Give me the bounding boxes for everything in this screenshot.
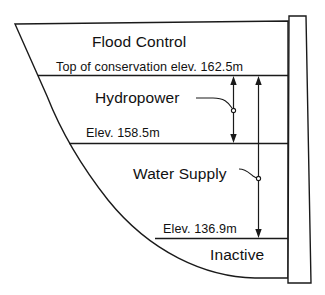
elevation-label-158-5: Elev. 158.5m — [86, 126, 160, 140]
zone-label-water-supply: Water Supply — [133, 165, 227, 183]
dam-wall — [288, 16, 311, 283]
zone-label-flood-control: Flood Control — [92, 33, 186, 51]
elevation-label-top-of-conservation: Top of conservation elev. 162.5m — [56, 60, 243, 74]
water-supply-leader-dot — [256, 176, 260, 180]
elevation-label-136-9: Elev. 136.9m — [163, 222, 237, 236]
zone-label-inactive: Inactive — [210, 246, 264, 264]
hydropower-leader-dot — [231, 108, 235, 112]
reservoir-zone-diagram: Flood Control Top of conservation elev. … — [0, 0, 325, 295]
zone-label-hydropower: Hydropower — [95, 89, 180, 107]
dam-wall-outline — [288, 16, 311, 283]
